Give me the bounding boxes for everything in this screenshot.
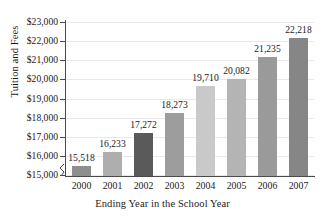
y-tick-label: $20,000 (0, 73, 58, 84)
x-axis-line (65, 176, 315, 177)
bar-value-label-2000: 15,518 (60, 152, 104, 163)
bar-2006 (258, 57, 277, 176)
y-tick-label: $21,000 (0, 54, 58, 65)
y-tick-label: $17,000 (0, 131, 58, 142)
x-axis-title: Ending Year in the School Year (0, 198, 325, 209)
x-tick-label-2007: 2007 (279, 180, 319, 191)
bar-2007 (289, 38, 308, 176)
y-tick-label: $18,000 (0, 112, 58, 123)
bar-value-label-2006: 21,235 (246, 43, 290, 54)
bar-2003 (165, 113, 184, 176)
y-tick-label: $19,000 (0, 93, 58, 104)
y-tick-label: $23,000 (0, 16, 58, 27)
bar-value-label-2001: 16,233 (91, 138, 135, 149)
bar-2000 (72, 166, 91, 176)
bar-2001 (103, 152, 122, 176)
bar-2005 (227, 79, 246, 176)
tuition-and-fees-bar-chart: Tuition and Fees $23,000$22,000$21,000$2… (0, 0, 325, 221)
bar-2002 (134, 133, 153, 176)
bar-value-label-2007: 22,218 (277, 24, 321, 35)
bar-value-label-2005: 20,082 (215, 65, 259, 76)
bar-value-label-2003: 18,273 (153, 99, 197, 110)
y-tick-label: $16,000 (0, 150, 58, 161)
bar-2004 (196, 86, 215, 176)
y-tick-label: $15,000 (0, 169, 58, 180)
bar-value-label-2002: 17,272 (122, 119, 166, 130)
y-tick-label: $22,000 (0, 35, 58, 46)
